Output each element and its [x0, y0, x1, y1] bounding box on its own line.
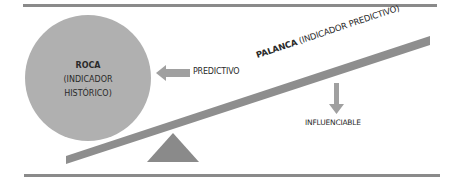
rock-subtitle-line2: HISTÓRICO) — [30, 87, 146, 101]
bottom-divider — [24, 174, 440, 177]
predictivo-label: PREDICTIVO — [193, 67, 239, 76]
influenciable-label: INFLUENCIABLE — [305, 118, 361, 127]
rock-lever-diagram: ROCA (INDICADOR HISTÓRICO) PREDICTIVO PA… — [0, 0, 456, 179]
rock-title: ROCA — [30, 59, 146, 73]
fulcrum-triangle — [147, 133, 199, 162]
arrow-down-icon — [329, 83, 344, 114]
rock-label: ROCA (INDICADOR HISTÓRICO) — [30, 59, 146, 101]
arrow-left-icon — [156, 65, 190, 81]
rock-subtitle-line1: (INDICADOR — [30, 73, 146, 87]
